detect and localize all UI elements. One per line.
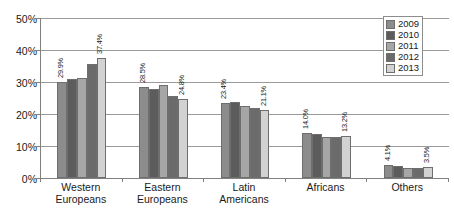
bar-slot xyxy=(159,18,169,178)
bar[interactable] xyxy=(159,85,169,178)
bar[interactable] xyxy=(87,64,97,178)
bar-group: 29.9%37.4% xyxy=(41,18,123,178)
legend-item[interactable]: 2010 xyxy=(386,30,419,40)
bar-value-label: 4.1% xyxy=(383,145,392,161)
x-axis-tick-mark xyxy=(122,178,123,182)
y-axis-tick-label: 0% xyxy=(1,174,37,185)
bar-group-bars: 29.9%37.4% xyxy=(57,18,106,178)
x-axis-tick-mark xyxy=(203,178,204,182)
legend-swatch-icon xyxy=(386,20,395,29)
x-axis-label-line: Americans xyxy=(203,194,285,206)
bar[interactable] xyxy=(250,108,260,178)
bar-value-label: 29.9% xyxy=(56,58,65,78)
legend-swatch-icon xyxy=(386,31,395,40)
bar[interactable] xyxy=(312,134,322,178)
legend-swatch-icon xyxy=(386,64,395,73)
y-axis-tick-label: 30% xyxy=(1,78,37,89)
legend-item[interactable]: 2011 xyxy=(386,41,419,51)
bar-slot: 3.5% xyxy=(423,18,433,178)
bar[interactable] xyxy=(384,165,394,178)
x-axis-label-line: Western xyxy=(40,182,122,194)
bar-slot xyxy=(331,18,341,178)
legend-item[interactable]: 2009 xyxy=(386,19,419,29)
bar-slot: 29.9% xyxy=(57,18,67,178)
legend-item[interactable]: 2013 xyxy=(386,63,419,73)
bar[interactable] xyxy=(393,166,403,178)
bar[interactable] xyxy=(302,133,312,178)
bar-slot: 24.8% xyxy=(178,18,188,178)
bar-slot: 14.0% xyxy=(302,18,312,178)
bar-slot xyxy=(322,18,332,178)
y-axis-tick-label: 50% xyxy=(1,14,37,25)
legend-swatch-icon xyxy=(386,53,395,62)
x-axis-tick-mark xyxy=(366,178,367,182)
bar-slot xyxy=(168,18,178,178)
x-axis-label-line: Europeans xyxy=(40,194,122,206)
bar-value-label: 37.4% xyxy=(95,34,104,54)
bar[interactable] xyxy=(77,78,87,178)
bar-slot xyxy=(312,18,322,178)
bar-value-label: 21.1% xyxy=(259,87,268,107)
x-axis-labels: WesternEuropeansEasternEuropeansLatinAme… xyxy=(40,182,448,205)
bar-group-bars: 23.4%21.1% xyxy=(221,18,270,178)
x-axis-label: Others xyxy=(366,182,448,205)
bar-group: 28.5%24.8% xyxy=(123,18,205,178)
legend-label: 2010 xyxy=(398,30,419,40)
bar[interactable] xyxy=(240,106,250,178)
bar-value-label: 23.4% xyxy=(219,79,228,99)
legend: 20092010201120122013 xyxy=(383,16,423,76)
x-axis-tick-mark xyxy=(40,178,41,182)
bar-value-label: 24.8% xyxy=(177,75,186,95)
bar[interactable] xyxy=(322,137,332,178)
bar[interactable] xyxy=(97,58,107,178)
legend-label: 2013 xyxy=(398,63,419,73)
bar[interactable] xyxy=(139,87,149,178)
bar-slot: 13.2% xyxy=(341,18,351,178)
bar-chart: 50%40%30%20%10%0% 29.9%37.4%28.5%24.8%23… xyxy=(0,0,454,215)
bar-slot: 37.4% xyxy=(97,18,107,178)
bar[interactable] xyxy=(67,79,77,178)
bar[interactable] xyxy=(413,168,423,178)
x-axis-label-line: Eastern xyxy=(122,182,204,194)
bar-slot xyxy=(149,18,159,178)
bar[interactable] xyxy=(423,167,433,178)
bar-group: 14.0%13.2% xyxy=(286,18,368,178)
x-axis-label: LatinAmericans xyxy=(203,182,285,205)
x-axis-label-line: Africans xyxy=(285,182,367,194)
y-axis-tick-label: 20% xyxy=(1,110,37,121)
bar-slot: 23.4% xyxy=(221,18,231,178)
bar[interactable] xyxy=(260,110,270,178)
bar-group: 23.4%21.1% xyxy=(204,18,286,178)
legend-swatch-icon xyxy=(386,42,395,51)
bar[interactable] xyxy=(168,96,178,178)
bar[interactable] xyxy=(57,82,67,178)
bar-slot: 21.1% xyxy=(260,18,270,178)
legend-item[interactable]: 2012 xyxy=(386,52,419,62)
bar-slot xyxy=(67,18,77,178)
bar[interactable] xyxy=(341,136,351,178)
bar-value-label: 28.5% xyxy=(138,63,147,83)
x-axis-label-line: Europeans xyxy=(122,194,204,206)
x-axis-label: EasternEuropeans xyxy=(122,182,204,205)
y-axis-tick-label: 40% xyxy=(1,46,37,57)
bar[interactable] xyxy=(178,99,188,178)
x-axis-label: Africans xyxy=(285,182,367,205)
x-axis-label-line: Latin xyxy=(203,182,285,194)
x-axis-tick-mark xyxy=(285,178,286,182)
x-axis-tick-mark xyxy=(448,178,449,182)
x-axis-label-line: Others xyxy=(366,182,448,194)
bar-group-bars: 14.0%13.2% xyxy=(302,18,351,178)
bar[interactable] xyxy=(221,103,231,178)
x-axis-label: WesternEuropeans xyxy=(40,182,122,205)
bar[interactable] xyxy=(149,89,159,178)
bar-value-label: 13.2% xyxy=(340,112,349,132)
bar[interactable] xyxy=(403,168,413,178)
bar-value-label: 14.0% xyxy=(301,109,310,129)
legend-label: 2012 xyxy=(398,52,419,62)
legend-label: 2011 xyxy=(398,41,418,51)
bar-slot xyxy=(77,18,87,178)
bar[interactable] xyxy=(331,137,341,178)
legend-label: 2009 xyxy=(398,19,419,29)
bar[interactable] xyxy=(230,102,240,178)
y-axis-tick-label: 10% xyxy=(1,142,37,153)
